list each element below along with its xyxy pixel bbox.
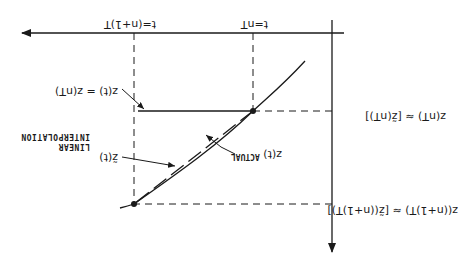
interp-label-line1: LINEAR (58, 142, 90, 150)
tick-label-t-n-plus-1: t=(n+1)T (104, 19, 156, 30)
actual-curve-label: z(t) ACTUAL (231, 149, 282, 160)
sample-point-n (250, 108, 256, 114)
actual-value-n: z(nT) (418, 110, 446, 123)
approx-value-n: ≈ [z̃(nT)] (365, 110, 414, 123)
hold-label: z(t) = z(nT) (55, 86, 118, 97)
value-label-n-plus-1: z((n+1)T) ≈ [z̃((n+1)T)] (327, 205, 458, 216)
tick-label-t-n: t=nT (241, 19, 268, 30)
sample-point-n-plus-1 (131, 201, 137, 207)
actual-curve-text: ACTUAL (231, 152, 260, 161)
diagram-stage: t=(n+1)T t=nT z((n+1)T) ≈ [z̃((n+1)T)] z… (0, 0, 468, 263)
actual-curve (120, 61, 305, 208)
interp-label-line2: INTERPOLATION (21, 132, 90, 140)
interp-symbol: z̃(t) (99, 152, 118, 163)
actual-curve-symbol: z(t) (263, 148, 282, 161)
value-label-n: z(nT) ≈ [z̃(nT)] (365, 111, 446, 122)
approx-value-n-plus-1: ≈ [z̃((n+1)T)] (327, 204, 401, 217)
leader-interp (122, 157, 175, 166)
leader-hold (122, 89, 144, 109)
actual-value-n-plus-1: z((n+1)T) (405, 204, 458, 217)
